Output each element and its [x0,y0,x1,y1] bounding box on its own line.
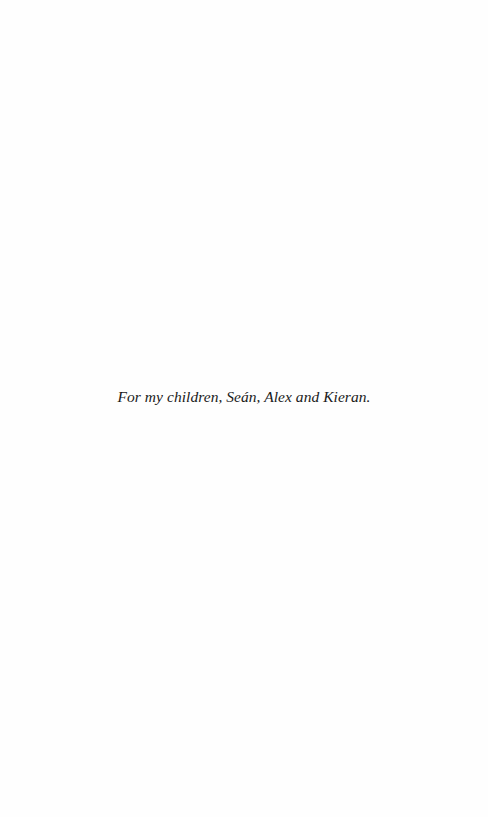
dedication-text: For my children, Seán, Alex and Kieran. [0,387,488,407]
book-page: For my children, Seán, Alex and Kieran. [0,0,488,817]
